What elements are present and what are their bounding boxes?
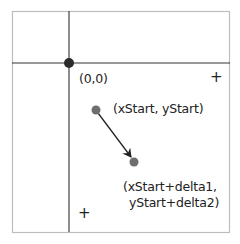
origin-label: (0,0) bbox=[79, 71, 108, 86]
plus-marker-right: + bbox=[210, 70, 223, 85]
origin-point bbox=[64, 58, 74, 68]
end-point bbox=[130, 158, 139, 167]
end-point-label-line1: (xStart+delta1, bbox=[123, 179, 217, 194]
start-point bbox=[92, 106, 101, 115]
translation-arrow bbox=[98, 113, 131, 157]
start-point-label: (xStart, yStart) bbox=[113, 101, 203, 116]
coordinate-diagram: (0,0) (xStart, yStart) (xStart+delta1, y… bbox=[0, 0, 240, 244]
plus-marker-bottom: + bbox=[78, 206, 91, 221]
end-point-label-line2: yStart+delta2) bbox=[129, 195, 219, 210]
